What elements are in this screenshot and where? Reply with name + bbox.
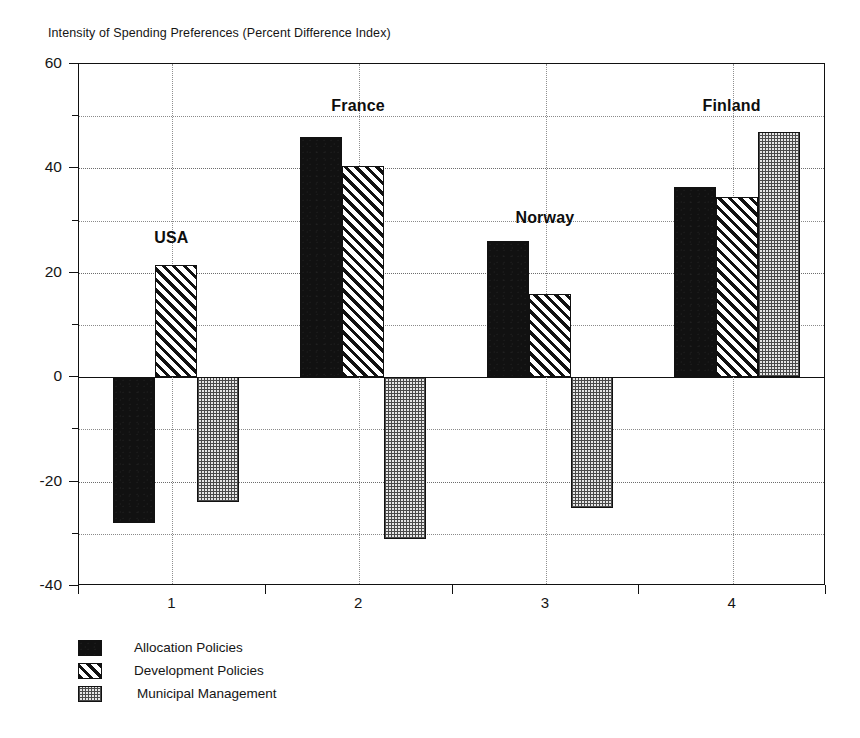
legend-item: Municipal Management — [78, 682, 438, 705]
bar — [113, 377, 155, 523]
y-axis-tick-label: 20 — [0, 263, 62, 281]
plot-area — [78, 63, 825, 585]
legend-swatch-allocation-icon — [78, 640, 102, 656]
y-axis-tick-mark — [69, 167, 78, 168]
legend-item: Allocation Policies — [78, 636, 438, 659]
group-annotation-label: Norway — [515, 209, 574, 227]
y-axis-tick-label: -20 — [0, 472, 62, 490]
chart-title: Intensity of Spending Preferences (Perce… — [48, 26, 391, 40]
y-axis-tick-mark-minor — [72, 220, 78, 221]
bar — [758, 132, 800, 377]
bar — [155, 265, 197, 377]
x-axis-tick-mark — [265, 585, 266, 594]
x-axis-tick-mark — [452, 585, 453, 594]
legend-label: Municipal Management — [137, 686, 277, 701]
gridline-major — [79, 482, 824, 483]
group-annotation-label: France — [331, 97, 385, 115]
bar — [529, 294, 571, 378]
y-axis-tick-label: 60 — [0, 54, 62, 72]
gridline-minor — [79, 116, 824, 117]
gridline-major — [79, 168, 824, 169]
legend-label: Allocation Policies — [134, 640, 243, 655]
legend-label: Development Policies — [134, 663, 264, 678]
group-annotation-label: Finland — [702, 97, 760, 115]
x-axis-tick-mark — [825, 585, 826, 594]
y-axis-tick-mark — [69, 376, 78, 377]
y-axis-tick-mark — [69, 481, 78, 482]
gridline-minor — [79, 534, 824, 535]
x-axis-tick-label: 4 — [727, 594, 735, 611]
x-axis-tick-mark — [78, 585, 79, 594]
y-axis-tick-label: -40 — [0, 576, 62, 594]
bar — [674, 187, 716, 378]
y-axis-tick-mark — [69, 585, 78, 586]
y-axis-tick-mark-minor — [72, 428, 78, 429]
zero-line — [79, 377, 824, 378]
legend-swatch-development-icon — [78, 663, 102, 679]
bar — [571, 377, 613, 508]
y-axis-tick-label: 0 — [0, 367, 62, 385]
bar — [197, 377, 239, 502]
x-axis-tick-mark — [638, 585, 639, 594]
bar-chart: Intensity of Spending Preferences (Perce… — [0, 0, 860, 738]
x-axis-tick-label: 1 — [167, 594, 175, 611]
bar — [716, 197, 758, 377]
y-axis-tick-label: 40 — [0, 158, 62, 176]
gridline-minor — [79, 429, 824, 430]
y-axis-tick-mark-minor — [72, 533, 78, 534]
legend-item: Development Policies — [78, 659, 438, 682]
bar — [384, 377, 426, 539]
bar — [487, 241, 529, 377]
y-axis-tick-mark-minor — [72, 115, 78, 116]
y-axis-tick-mark — [69, 272, 78, 273]
chart-legend: Allocation Policies Development Policies… — [78, 636, 438, 705]
y-axis-tick-mark-minor — [72, 324, 78, 325]
bar — [300, 137, 342, 377]
bar — [342, 166, 384, 377]
legend-swatch-municipal-icon — [78, 686, 102, 702]
x-axis-tick-label: 2 — [354, 594, 362, 611]
y-axis-tick-mark — [69, 63, 78, 64]
x-axis-tick-label: 3 — [541, 594, 549, 611]
group-annotation-label: USA — [154, 229, 188, 247]
